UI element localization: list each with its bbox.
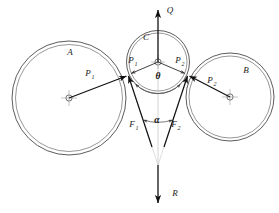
svg-text:P: P <box>127 55 134 65</box>
angle-alpha-label: α <box>154 115 160 125</box>
svg-text:P: P <box>206 75 213 85</box>
svg-text:2: 2 <box>214 81 217 87</box>
svg-text:P: P <box>174 55 181 65</box>
svg-text:1: 1 <box>135 61 138 67</box>
reaction-p2-center-label: P 2 <box>174 55 184 67</box>
svg-text:2: 2 <box>182 61 185 67</box>
force-p1-vector <box>69 76 127 98</box>
circle-a-label: A <box>66 47 73 57</box>
reaction-r-label: R <box>171 188 178 198</box>
force-f1-label: F 1 <box>128 119 138 131</box>
svg-text:1: 1 <box>92 74 95 80</box>
force-f2-label: F 2 <box>170 119 180 131</box>
svg-text:2: 2 <box>178 125 181 131</box>
svg-text:F: F <box>128 119 135 129</box>
reaction-p1-center-label: P 1 <box>127 55 137 67</box>
force-f1-vector <box>129 76 153 147</box>
circle-b-label: B <box>243 65 249 75</box>
figure-canvas: A B C P 1 P 2 P 1 P 2 F 1 F 2 <box>0 0 279 213</box>
mechanics-diagram: A B C P 1 P 2 P 1 P 2 F 1 F 2 <box>0 0 279 213</box>
load-q-label: Q <box>167 5 174 15</box>
svg-text:P: P <box>84 68 91 78</box>
force-p1-label: P 1 <box>84 68 94 80</box>
svg-text:1: 1 <box>136 125 139 131</box>
circle-c-label: C <box>143 32 150 42</box>
force-f2-vector <box>164 76 188 147</box>
svg-text:F: F <box>170 119 177 129</box>
angle-theta-label: θ <box>156 71 161 81</box>
